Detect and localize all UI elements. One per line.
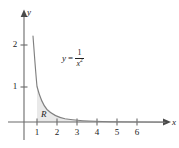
y-axis-label: y: [27, 8, 31, 17]
y-tick-label-2: 2: [10, 40, 20, 49]
region-label-r: R: [41, 110, 47, 119]
equation-lhs: y: [62, 54, 66, 63]
x-tick-label-3: 3: [72, 128, 82, 137]
equation-label: y = 1 x2: [62, 49, 84, 68]
equation-fraction: 1 x2: [75, 49, 84, 68]
plot-svg: [0, 0, 179, 148]
equation-equals-sign: =: [68, 54, 73, 63]
x-tick-label-1: 1: [32, 128, 42, 137]
figure-container: y x 1 2 1 2 3 4 5 6 R y = 1 x2: [0, 0, 179, 148]
x-tick-label-5: 5: [112, 128, 122, 137]
x-tick-label-2: 2: [52, 128, 62, 137]
x-tick-label-4: 4: [92, 128, 102, 137]
x-tick-label-6: 6: [132, 128, 142, 137]
equation-denominator-exponent: 2: [80, 57, 83, 63]
y-tick-label-1: 1: [10, 82, 20, 91]
x-axis-label: x: [172, 118, 176, 127]
shaded-region-r: [37, 87, 165, 123]
curve-y-equals-one-over-x-squared: [33, 36, 165, 122]
equation-denominator: x2: [75, 59, 83, 68]
